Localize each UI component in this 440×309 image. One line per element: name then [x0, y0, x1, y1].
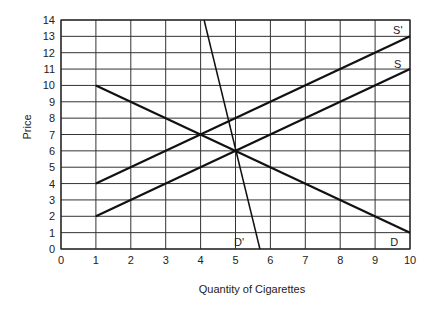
curve-d: [96, 85, 410, 232]
grid-lines: [61, 20, 410, 249]
x-axis-ticks: 012345678910: [58, 254, 416, 266]
curve-labels: S'SDD': [234, 24, 403, 248]
x-tick-label: 6: [267, 254, 273, 266]
supply-demand-chart: 01234567891011121314 012345678910 S'SDD'…: [0, 0, 440, 309]
y-tick-label: 11: [44, 63, 55, 75]
curve-label-s: S: [394, 58, 401, 70]
y-tick-label: 13: [43, 30, 55, 42]
x-tick-label: 0: [58, 254, 64, 266]
y-tick-label: 10: [43, 79, 55, 91]
y-tick-label: 6: [49, 145, 55, 157]
curve-label-d-prime: D': [234, 236, 244, 248]
y-tick-label: 7: [49, 129, 55, 141]
y-tick-label: 1: [49, 227, 55, 239]
x-tick-label: 10: [404, 254, 416, 266]
x-axis-label: Quantity of Cigarettes: [199, 283, 306, 295]
curve-label-s-prime: S': [393, 24, 402, 36]
y-tick-label: 8: [49, 112, 55, 124]
x-tick-label: 4: [198, 254, 204, 266]
y-tick-label: 14: [43, 14, 55, 26]
x-tick-label: 5: [232, 254, 238, 266]
x-tick-label: 3: [163, 254, 169, 266]
y-tick-label: 12: [43, 47, 55, 59]
y-tick-label: 3: [49, 194, 55, 206]
curve-s-prime: [96, 36, 410, 183]
curve-label-d: D: [390, 236, 398, 248]
x-tick-label: 7: [302, 254, 308, 266]
y-tick-label: 2: [49, 210, 55, 222]
y-axis-label: Price: [21, 114, 33, 139]
x-tick-label: 9: [372, 254, 378, 266]
y-tick-label: 9: [49, 96, 55, 108]
y-axis-ticks: 01234567891011121314: [43, 14, 55, 255]
y-tick-label: 0: [49, 243, 55, 255]
y-tick-label: 5: [49, 161, 55, 173]
curve-s: [96, 69, 410, 216]
y-tick-label: 4: [49, 178, 55, 190]
x-tick-label: 1: [93, 254, 99, 266]
x-tick-label: 8: [337, 254, 343, 266]
x-tick-label: 2: [128, 254, 134, 266]
